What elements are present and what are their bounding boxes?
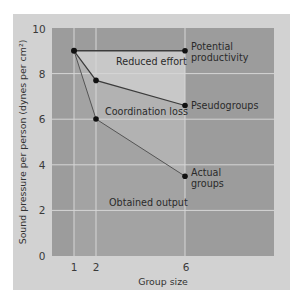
y-tick: 8 xyxy=(39,68,46,80)
potential-label-line1: Potential xyxy=(191,41,233,52)
x-axis-label: Group size xyxy=(138,276,188,287)
actual-label-line2: groups xyxy=(191,178,224,189)
chart: 0 2 4 6 8 10 1 2 6 Group size Sound pres… xyxy=(0,0,298,302)
actual-label-line1: Actual xyxy=(191,167,221,178)
y-tick: 0 xyxy=(39,250,46,262)
x-tick: 6 xyxy=(183,261,190,273)
x-tick-labels: 1 2 6 xyxy=(71,261,190,273)
y-tick-labels: 0 2 4 6 8 10 xyxy=(32,23,45,262)
y-tick: 10 xyxy=(32,23,45,35)
reduced-effort-label: Reduced effort xyxy=(116,56,187,67)
pseudogroups-label: Pseudogroups xyxy=(191,100,258,111)
y-tick: 6 xyxy=(39,113,46,125)
y-axis-label: Sound pressure per person (dynes per cm²… xyxy=(17,40,28,245)
coordination-loss-label: Coordination loss xyxy=(105,106,188,117)
y-tick: 4 xyxy=(39,159,46,171)
potential-label-line2: productivity xyxy=(191,52,249,63)
x-tick: 2 xyxy=(93,261,100,273)
obtained-output-label: Obtained output xyxy=(109,197,188,208)
x-tick: 1 xyxy=(71,261,78,273)
y-tick: 2 xyxy=(39,204,46,216)
